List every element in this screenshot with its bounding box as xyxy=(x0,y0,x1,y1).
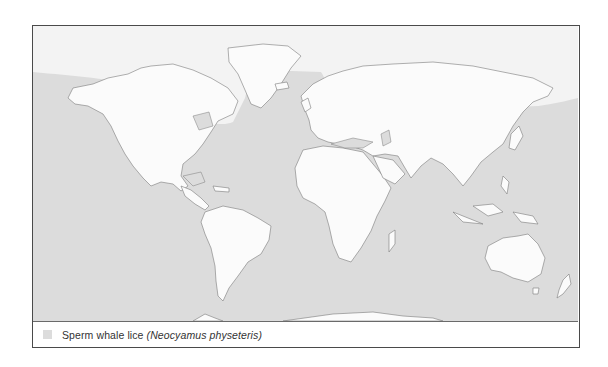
legend-scientific-name: (Neocyamus physeteris) xyxy=(147,329,262,341)
map-figure: Sperm whale lice (Neocyamus physeteris) xyxy=(32,25,580,348)
legend-label: Sperm whale lice (Neocyamus physeteris) xyxy=(62,329,262,341)
legend-common-name: Sperm whale lice xyxy=(62,329,147,341)
world-map-svg xyxy=(33,26,578,321)
tasmania xyxy=(533,288,539,294)
map-legend: Sperm whale lice (Neocyamus physeteris) xyxy=(33,322,578,347)
legend-swatch xyxy=(43,330,52,339)
world-map xyxy=(33,26,578,322)
